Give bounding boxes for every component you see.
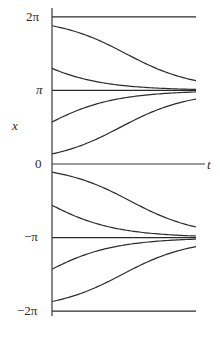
solution-curve <box>52 239 196 269</box>
y-axis-label: x <box>12 119 18 132</box>
solution-curve <box>52 99 196 154</box>
tick-label-2pi: 2π <box>26 10 39 23</box>
tick-label-0: 0 <box>35 157 42 170</box>
tick-label-neg-2pi: −2π <box>17 304 37 317</box>
phase-plot <box>0 0 220 338</box>
x-axis-label: t <box>207 158 211 171</box>
solution-curve <box>52 172 196 227</box>
solution-curve <box>52 26 196 81</box>
tick-label-pi: π <box>36 83 43 96</box>
solution-curve <box>52 92 196 122</box>
tick-label-neg-pi: −π <box>24 230 38 243</box>
solution-curve <box>52 68 196 89</box>
solution-curve <box>52 247 196 302</box>
